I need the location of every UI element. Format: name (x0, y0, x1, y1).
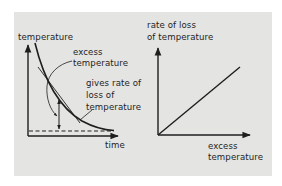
right-graph (158, 48, 250, 135)
right-y-axis-label-line2: of temperature (147, 32, 213, 43)
right-y-axis-label-line1: rate of loss (147, 20, 196, 31)
tangent-annotation-line2: loss of (86, 90, 114, 101)
left-y-axis-label: temperature (18, 32, 73, 43)
proportional-line (158, 67, 240, 135)
tangent-annotation-line1: gives rate of (86, 78, 141, 89)
excess-annotation-line1: excess (73, 47, 103, 58)
left-x-axis-label: time (105, 140, 125, 151)
right-x-axis-label-line1: excess (208, 141, 238, 152)
right-x-axis-label-line2: temperature (208, 152, 263, 163)
excess-annotation-line2: temperature (73, 58, 128, 69)
tangent-annotation-line3: temperature (86, 102, 141, 113)
